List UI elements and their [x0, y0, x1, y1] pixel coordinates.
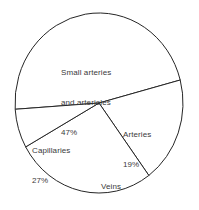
pie-chart-svg — [0, 0, 199, 210]
pie-chart-figure: Small arteries and arterioles 47% Arteri… — [0, 0, 199, 210]
pie-slices-group — [15, 13, 183, 193]
